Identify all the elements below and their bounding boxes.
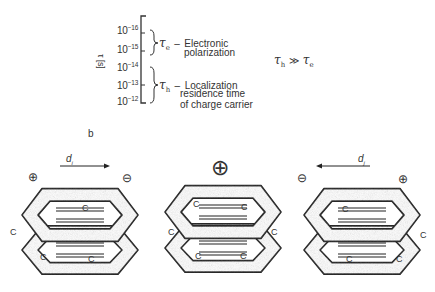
svg-text:C: C xyxy=(88,254,95,264)
panel-label-b: b xyxy=(88,128,94,139)
left-dipole-arrow xyxy=(60,164,110,169)
time-scale-axis xyxy=(0,0,435,130)
tau-h-line2: residence time xyxy=(180,88,245,99)
svg-text:C: C xyxy=(420,230,427,240)
svg-text:C: C xyxy=(241,202,248,212)
svg-text:C: C xyxy=(271,227,278,237)
svg-text:C: C xyxy=(240,251,247,261)
tau-h-line3: of charge carrier xyxy=(180,99,253,110)
stacked-rings-diagram: C C C C C C C C C C C C C C xyxy=(0,140,435,292)
relation: τh ≫ τe xyxy=(274,53,314,69)
tau-h-symbol: τh xyxy=(159,78,170,92)
svg-text:C: C xyxy=(193,199,200,209)
svg-text:C: C xyxy=(346,254,353,264)
svg-text:C: C xyxy=(396,254,403,264)
svg-text:C: C xyxy=(82,203,89,213)
svg-text:C: C xyxy=(40,252,47,262)
svg-text:C: C xyxy=(10,227,17,237)
dash: – xyxy=(174,38,180,49)
svg-text:C: C xyxy=(195,251,202,261)
tau-e-line2: polarization xyxy=(184,47,235,58)
center-ring-pair: C C C C C C xyxy=(165,186,281,273)
right-dipole-arrow xyxy=(316,164,370,169)
left-ring-pair: C C C C xyxy=(10,189,138,275)
tau-e-symbol: τe xyxy=(159,36,170,50)
svg-text:C: C xyxy=(342,204,349,214)
svg-text:C: C xyxy=(168,227,175,237)
right-ring-pair: C C C C xyxy=(304,189,427,275)
